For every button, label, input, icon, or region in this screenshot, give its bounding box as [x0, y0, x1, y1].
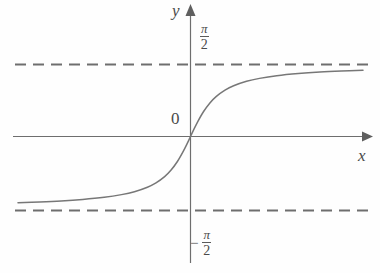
y-axis-arrowhead — [186, 4, 196, 16]
arctan-function-figure: y x 0 π 2 − π 2 — [0, 0, 380, 273]
two-denominator: 2 — [201, 243, 212, 258]
pi-numerator: π — [199, 22, 210, 36]
origin-label: 0 — [171, 109, 180, 129]
x-axis-arrowhead — [362, 132, 373, 142]
minus-sign: − — [190, 235, 198, 252]
y-axis-label: y — [172, 1, 180, 21]
pi-over-two-label: π 2 — [199, 22, 210, 52]
two-denominator: 2 — [199, 37, 210, 52]
negative-pi-over-two-label: − π 2 — [190, 228, 212, 258]
negative-fraction: π 2 — [201, 228, 212, 258]
pi-numerator: π — [201, 228, 212, 242]
x-axis-label: x — [358, 146, 366, 166]
